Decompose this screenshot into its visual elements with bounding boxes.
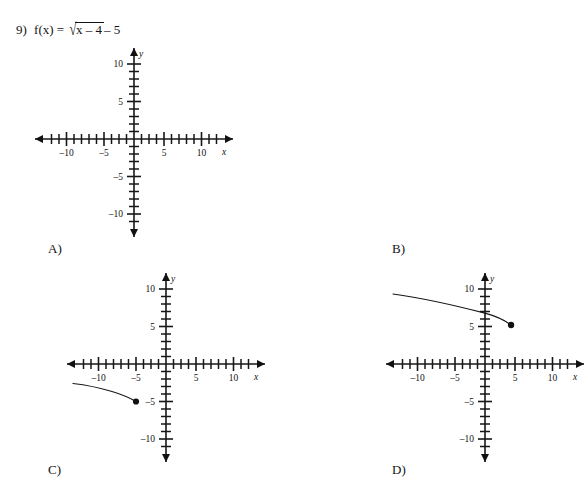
x-tick-label: –10 — [90, 373, 106, 383]
y-tick-label: –10 — [140, 434, 156, 444]
x-tick-label: –10 — [409, 373, 425, 383]
axes — [35, 48, 233, 237]
x-tick-label: –5 — [449, 373, 460, 383]
x-tick-label: 5 — [513, 373, 518, 383]
problem-number: 9) — [16, 22, 27, 37]
y-axis-up-arrow-icon — [130, 48, 138, 56]
y-tick-label: 10 — [114, 59, 124, 69]
y-tick-label: 5 — [118, 97, 123, 107]
trailing-term: – 5 — [104, 22, 120, 37]
y-tick-label: –10 — [108, 209, 124, 219]
curve-endpoint-dot — [133, 398, 139, 404]
choice-c-graph: –10 –5 5 10 10 5 –5 –10 x y — [58, 267, 270, 467]
y-axis-label: y — [170, 274, 176, 284]
y-axis-label: y — [138, 49, 144, 59]
choice-d-graph: –10 –5 5 10 10 5 –5 –10 x y — [377, 267, 588, 467]
x-tick-label: –10 — [58, 148, 74, 158]
problem-graph: –10 –5 5 10 10 5 –5 –10 x y — [26, 42, 238, 242]
x-axis-right-arrow-icon — [257, 360, 265, 368]
x-axis-right-arrow-icon — [225, 135, 233, 143]
x-tick-label: –5 — [98, 148, 109, 158]
y-axis-up-arrow-icon — [481, 273, 489, 281]
y-tick-label: 10 — [146, 284, 156, 294]
y-tick-label: 5 — [469, 322, 474, 332]
x-axis-label: x — [221, 147, 227, 157]
x-tick-label: 5 — [162, 148, 167, 158]
x-tick-label: 10 — [229, 373, 239, 383]
problem-graph-svg: –10 –5 5 10 10 5 –5 –10 x y — [26, 42, 238, 242]
y-tick-label: –5 — [145, 397, 156, 407]
y-tick-label: 10 — [465, 284, 475, 294]
x-tick-label: 5 — [194, 373, 199, 383]
axes — [386, 273, 584, 462]
x-axis-left-arrow-icon — [35, 135, 43, 143]
choice-c-graph-svg: –10 –5 5 10 10 5 –5 –10 x y — [58, 267, 270, 467]
x-axis-label: x — [572, 372, 578, 382]
choice-d-graph-svg: –10 –5 5 10 10 5 –5 –10 x y — [377, 267, 588, 467]
y-axis-down-arrow-icon — [162, 454, 170, 462]
y-tick-label: –10 — [459, 434, 475, 444]
problem-statement: 9) f(x) = √x – 4 – 5 — [16, 22, 120, 37]
x-tick-label: –5 — [130, 373, 141, 383]
choice-label-c[interactable]: C) — [48, 462, 61, 478]
x-axis-label: x — [253, 372, 259, 382]
y-tick-label: 5 — [150, 322, 155, 332]
y-axis-up-arrow-icon — [162, 273, 170, 281]
y-tick-label: –5 — [113, 172, 124, 182]
x-axis-right-arrow-icon — [576, 360, 584, 368]
y-axis-down-arrow-icon — [130, 229, 138, 237]
choice-label-b[interactable]: B) — [392, 241, 405, 257]
plotted-curve-d — [393, 294, 514, 328]
x-axis-left-arrow-icon — [67, 360, 75, 368]
y-axis-label: y — [489, 274, 495, 284]
x-axis-left-arrow-icon — [386, 360, 394, 368]
plotted-curve-c — [73, 384, 139, 405]
x-tick-label: 10 — [197, 148, 207, 158]
radicand: x – 4 — [75, 22, 104, 37]
y-tick-label: –5 — [464, 397, 475, 407]
square-root-expression: √x – 4 — [67, 22, 104, 37]
y-axis-down-arrow-icon — [481, 454, 489, 462]
x-tick-label: 10 — [548, 373, 558, 383]
function-notation: f(x) = — [34, 22, 64, 37]
choice-label-d[interactable]: D) — [392, 462, 406, 478]
axes — [67, 273, 265, 462]
choice-label-a[interactable]: A) — [48, 241, 62, 257]
curve-endpoint-dot — [508, 322, 514, 328]
